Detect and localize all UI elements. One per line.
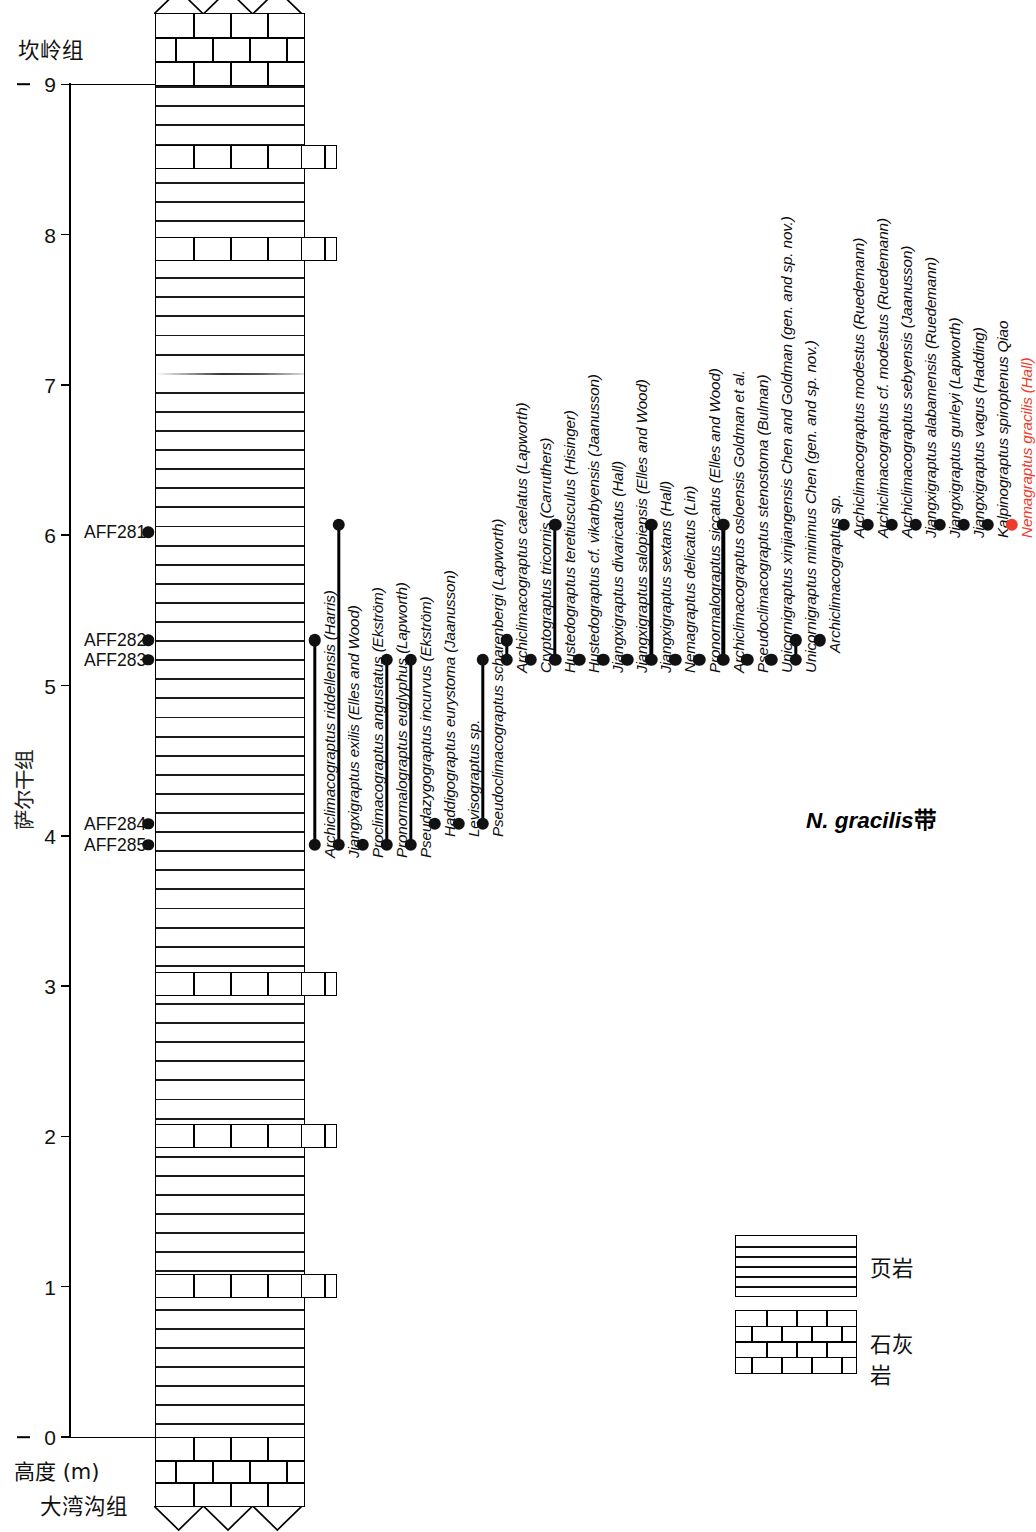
legend-swatch-brick	[735, 1310, 857, 1374]
taxon-label: Kalpinograptus spiroptenus Qiao	[994, 320, 1012, 537]
range-base-dot	[934, 518, 947, 531]
legend-label: 石灰岩	[870, 1327, 934, 1389]
range-base-dot	[1006, 518, 1019, 531]
taxon-label: Nemagraptus gracilis (Hall)	[1018, 357, 1036, 537]
range-base-dot	[958, 518, 971, 531]
taxon-label: Jiangxigraptus vagus (Hadding)	[970, 327, 988, 538]
range-base-dot	[982, 518, 995, 531]
taxon-label: Jiangxigraptus gurleyi (Lapworth)	[946, 317, 964, 537]
legend-label: 页岩	[870, 1251, 914, 1282]
legend-swatch-horizontal-lines	[735, 1235, 857, 1297]
